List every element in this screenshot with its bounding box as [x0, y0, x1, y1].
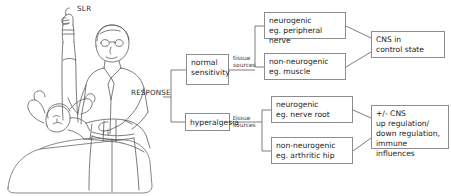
upper-outcome-links — [346, 26, 371, 67]
lower-outcome-links — [353, 110, 371, 151]
treatment-table — [8, 138, 152, 193]
node-non-neurogenic-arthritic-hip: non-neurogenic eg. arthritic hip — [271, 137, 353, 164]
tissue-sources-label-upper: tissue sources — [233, 55, 256, 69]
node-neurogenic-peripheral-nerve: neurogenic eg. peripheral nerve — [264, 12, 346, 39]
figure-canvas: SLR RESPONSE tissue sources tissue sourc… — [0, 0, 451, 196]
supine-patient — [28, 91, 150, 152]
node-cns-in-control-state: CNS in control state — [371, 31, 445, 58]
slr-title-label: SLR — [77, 4, 91, 13]
node-neurogenic-nerve-root: neurogenic eg. nerve root — [271, 96, 353, 123]
node-cns-modulation: +/- CNS up regulation/ down regulation, … — [371, 105, 449, 149]
node-non-neurogenic-muscle: non-neurogenic eg. muscle — [264, 53, 346, 80]
node-hyperalgesia: hyperalgesia — [185, 113, 230, 131]
node-normal-sensitivity: normal sensitivity — [186, 54, 229, 85]
clinician — [62, 18, 148, 192]
slr-illustration — [0, 0, 180, 196]
response-label: RESPONSE — [131, 88, 171, 97]
